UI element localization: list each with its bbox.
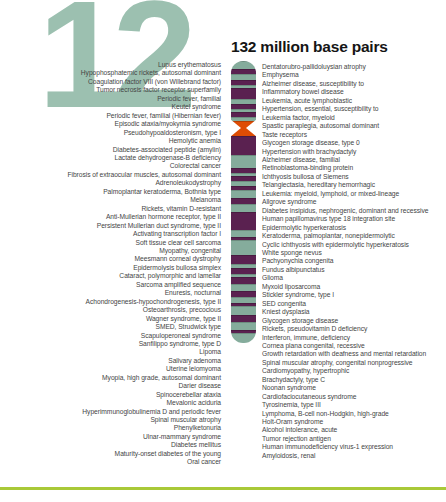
disease-label: Lymphoma, B-cell non-Hodgkin, high-grade	[262, 410, 446, 418]
disease-label: Spinocerebellar ataxia	[0, 391, 221, 399]
bottom-rule	[0, 487, 446, 490]
disease-label: Myopia, high grade, autosomal dominant	[0, 374, 221, 382]
disease-label: Keratoderma, palmoplantar, nonepidermoly…	[262, 232, 446, 240]
disease-label: Hypophosphatemic rickets, autosomal domi…	[0, 69, 221, 77]
disease-label: Ulnar-mammary syndrome	[0, 433, 221, 441]
disease-label: Phenylketonuria	[0, 424, 221, 432]
disease-label: Human immunodeficiency virus-1 expressio…	[262, 443, 446, 451]
disease-label: Epidermolytic hyperkeratosis	[262, 224, 446, 232]
disease-label: Anti-Mullerian hormone receptor, type II	[0, 213, 221, 221]
disease-label: Diabetes mellitus	[0, 441, 221, 449]
disease-label: Cornea plana congenital, recessive	[262, 342, 446, 350]
disease-list-left: Lupus erythematosusHypophosphatemic rick…	[0, 61, 221, 467]
chromosome-band-purple	[231, 88, 256, 99]
disease-label: SED congenita	[262, 300, 446, 308]
disease-label: Hypertension with brachydactyly	[262, 148, 446, 156]
disease-label: Melanoma	[0, 196, 221, 204]
disease-label: Telangiectasia, hereditary hemorrhagic	[262, 181, 446, 189]
chromosome-band-teal	[231, 322, 256, 330]
disease-label: Scapuloperoneal syndrome	[0, 332, 221, 340]
disease-label: Activating transcription factor I	[0, 230, 221, 238]
chromosome-band-teal	[231, 155, 256, 168]
disease-label: Soft tissue clear cell sarcoma	[0, 239, 221, 247]
disease-label: Episodic ataxia/myokymia syndrome	[0, 120, 221, 128]
disease-label: Fibrosis of extraocular muscles, autosom…	[0, 171, 221, 179]
disease-label: Lupus erythematosus	[0, 61, 221, 69]
disease-label: Uterine leiomyoma	[0, 365, 221, 373]
chromosome-band-teal	[231, 61, 256, 69]
disease-label: Stickler syndrome, type I	[262, 291, 446, 299]
disease-label: Emphysema	[262, 71, 446, 79]
disease-label: Mevalonic aciduria	[0, 399, 221, 407]
disease-label: Diabetes-associated peptide (amylin)	[0, 146, 221, 154]
disease-label: Rickets, vitamin D-resistant	[0, 205, 221, 213]
disease-label: Tumor rejection antigen	[262, 435, 446, 443]
disease-label: Diabetes insipidus, nephrogenic, dominan…	[262, 207, 446, 215]
chromosome-band-teal	[231, 333, 256, 343]
disease-label: Inflammatory bowel disease	[262, 88, 446, 96]
disease-label: Cyclic ichthyosis with epidermolytic hyp…	[262, 241, 446, 249]
chromosome-band-teal	[231, 240, 256, 255]
disease-label: Enuresis, nocturnal	[0, 289, 221, 297]
chromosome-band-purple	[231, 212, 256, 230]
disease-label: Noonan syndrome	[262, 384, 446, 392]
base-pairs-title: 132 million base pairs	[231, 38, 388, 56]
disease-label: Allgrove syndrome	[262, 198, 446, 206]
disease-label: Leukemia: myeloid, lymphoid, or mixed-li…	[262, 190, 446, 198]
centromere-pinch-right-icon	[246, 119, 257, 137]
disease-label: Glioma	[262, 274, 446, 282]
disease-label: Taste receptors	[262, 131, 446, 139]
disease-label: Hemolytic anemia	[0, 137, 221, 145]
disease-label: Cardiofaciocutaneous syndrome	[262, 393, 446, 401]
chromosome-band-purple	[231, 277, 256, 284]
disease-label: Wagner syndrome, type II	[0, 315, 221, 323]
chromosome-ideogram	[231, 61, 256, 343]
chromosome-band-purple	[231, 315, 256, 322]
disease-label: Periodic fever, familial	[0, 95, 221, 103]
chromosome-bands	[231, 61, 256, 343]
chromosome-band-teal	[231, 230, 256, 237]
disease-label: Adrenoleukodystrophy	[0, 179, 221, 187]
disease-label: Epidermolysis bullosa simplex	[0, 264, 221, 272]
disease-label: Lactate dehydrogenase-B deficiency	[0, 154, 221, 162]
disease-label: Sarcoma amplified sequence	[0, 281, 221, 289]
disease-label: Human papillomavirus type 18 integration…	[262, 215, 446, 223]
disease-label: Retinoblastoma-binding protein	[262, 164, 446, 172]
disease-label: Alzheimer disease, susceptibility to	[262, 80, 446, 88]
disease-label: Spastic paraplegia, autosomal dominant	[262, 122, 446, 130]
chromosome-band-purple	[231, 136, 256, 155]
disease-label: Periodic fever, familial (Hibernian feve…	[0, 112, 221, 120]
disease-label: Myopathy, congenital	[0, 247, 221, 255]
disease-label: Rickets, pseudovitamin D deficiency	[262, 325, 446, 333]
disease-label: Keutel syndrome	[0, 103, 221, 111]
disease-label: Maturity-onset diabetes of the young	[0, 450, 221, 458]
disease-label: Meesmann corneal dystrophy	[0, 255, 221, 263]
disease-label: Spinal muscular atrophy	[0, 416, 221, 424]
disease-label: Ichthyosis bullosa of Siemens	[262, 173, 446, 181]
disease-label: Darier disease	[0, 382, 221, 390]
disease-label: Alcohol intolerance, acute	[262, 426, 446, 434]
disease-label: Pachyonychia congenita	[262, 257, 446, 265]
chromosome-band-teal	[231, 204, 256, 212]
disease-label: Sanfilippo syndrome, type D	[0, 340, 221, 348]
disease-label: Holt-Oram syndrome	[262, 418, 446, 426]
chromosome-band-teal	[231, 190, 256, 198]
chromosome-band-purple	[231, 255, 256, 264]
disease-label: Hypertension, essential, susceptibility …	[262, 105, 446, 113]
disease-label: Amyloidosis, renal	[262, 452, 446, 460]
disease-label: Salivary adenoma	[0, 357, 221, 365]
disease-label: Tyrosinemia, type III	[262, 401, 446, 409]
disease-label: Spinal muscular atrophy, congenital nonp…	[262, 359, 446, 367]
centromere-pinch-left-icon	[230, 119, 241, 137]
disease-label: Brachydactyly, type C	[262, 376, 446, 384]
disease-label: Alzheimer disease, familial	[262, 156, 446, 164]
disease-label: Achondrogenesis-hypochondrogenesis, type…	[0, 298, 221, 306]
disease-label: Glycogen storage disease, type 0	[262, 139, 446, 147]
disease-label: Kniest dysplasia	[262, 308, 446, 316]
disease-label: Oral cancer	[0, 458, 221, 466]
disease-label: Cataract, polymorphic and lamellar	[0, 272, 221, 280]
disease-label: Cardiomyopathy, hypertrophic	[262, 367, 446, 375]
disease-label: White sponge nevus	[262, 249, 446, 257]
disease-label: Tumor necrosis factor receptor superfami…	[0, 86, 221, 94]
disease-label: Lipoma	[0, 348, 221, 356]
